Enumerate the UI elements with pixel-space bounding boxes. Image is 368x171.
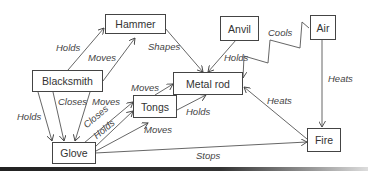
node-label: Metal rod: [186, 78, 230, 90]
node-metal-rod: Metal rod: [173, 72, 243, 95]
node-label: Anvil: [228, 23, 251, 35]
node-fire: Fire: [307, 128, 341, 152]
node-tongs: Tongs: [133, 95, 177, 118]
edge-label-moves: Moves: [144, 124, 172, 135]
edge-label-heats: Heats: [267, 95, 292, 106]
edge-label-holds: Holds: [17, 111, 41, 122]
bottom-edge-band: [0, 167, 368, 171]
edge-label-closes: Closes: [58, 96, 87, 107]
edge-label-shapes: Shapes: [148, 41, 180, 52]
node-label: Fire: [315, 134, 333, 146]
node-label: Air: [317, 22, 330, 34]
edge-label-cools: Cools: [268, 27, 292, 38]
node-blacksmith: Blacksmith: [32, 70, 103, 92]
edge-label-holds: Holds: [186, 106, 210, 117]
node-label: Blacksmith: [42, 75, 93, 87]
edge-label-holds: Holds: [224, 52, 248, 63]
node-label: Tongs: [141, 101, 169, 113]
node-label: Glove: [60, 147, 87, 159]
edge-label-holds: Holds: [56, 42, 80, 53]
edge-label-moves: Moves: [131, 82, 159, 93]
edge-label-moves: Moves: [88, 52, 116, 63]
node-anvil: Anvil: [220, 16, 259, 41]
edge-label-heats: Heats: [328, 73, 353, 84]
node-hammer: Hammer: [105, 14, 166, 34]
node-glove: Glove: [52, 142, 96, 164]
node-label: Hammer: [115, 18, 155, 30]
edge-label-stops: Stops: [196, 150, 220, 161]
node-air: Air: [310, 15, 336, 40]
